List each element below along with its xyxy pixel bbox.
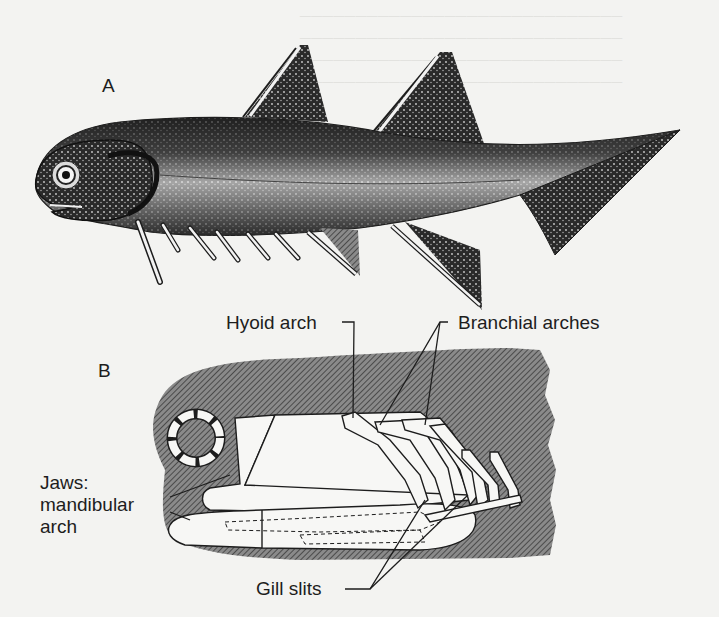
fish-illustration: [36, 45, 680, 310]
jaws-label-line-3: arch: [40, 516, 134, 538]
gill-slits-label: Gill slits: [256, 578, 321, 600]
hyoid-arch-label: Hyoid arch: [226, 312, 317, 334]
dorsal-fin-1: [243, 45, 328, 122]
anal-fin: [392, 222, 482, 310]
jaws-label-line-2: mandibular: [40, 494, 134, 516]
jaws-label: Jaws: mandibular arch: [40, 472, 134, 538]
jaws-label-line-1: Jaws:: [40, 472, 134, 494]
eye: [52, 161, 80, 189]
branchial-arches-label: Branchial arches: [458, 312, 600, 334]
panel-b-label: B: [98, 360, 111, 382]
pelvic-fin: [308, 228, 360, 276]
panel-a-label: A: [102, 75, 115, 97]
skull-diagram: [153, 348, 556, 560]
